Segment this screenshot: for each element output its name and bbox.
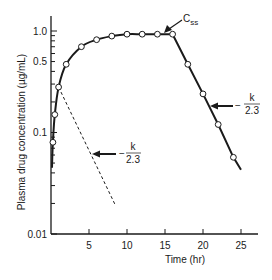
css-arrow-shaft xyxy=(169,20,182,29)
css-label: Css xyxy=(183,13,198,27)
data-point-marker xyxy=(79,44,85,50)
y-tick-label: 0.5 xyxy=(33,56,47,67)
x-tick-label: 20 xyxy=(197,240,209,251)
data-point-marker xyxy=(215,122,221,128)
x-tick-label: 5 xyxy=(86,240,92,251)
pharmacokinetic-chart: 0.010.10.51.0510152025 Css − k 2.3 − k 2… xyxy=(0,0,272,280)
data-point-marker xyxy=(170,31,176,37)
data-point-marker xyxy=(185,61,191,67)
x-tick-label: 10 xyxy=(121,240,133,251)
data-point-marker xyxy=(231,154,237,160)
left-slope-denominator: 2.3 xyxy=(126,154,140,165)
y-tick-label: 0.1 xyxy=(33,127,47,138)
data-point-marker xyxy=(63,61,69,67)
dashed-line xyxy=(59,87,116,206)
right-slope-denominator: 2.3 xyxy=(245,105,259,116)
data-point-marker xyxy=(56,84,62,90)
left-slope-arrow-head-icon xyxy=(92,151,100,158)
data-point-marker xyxy=(109,33,115,39)
data-point-marker xyxy=(200,91,206,97)
right-slope-sign: − xyxy=(235,100,241,111)
data-point-marker xyxy=(155,31,161,37)
left-slope-sign: − xyxy=(119,148,125,159)
right-slope-numerator: k xyxy=(250,92,256,103)
concentration-curve xyxy=(52,34,241,170)
data-point-marker xyxy=(139,31,145,37)
extrapolated-dashed-line xyxy=(59,87,116,206)
left-slope-numerator: k xyxy=(131,141,137,152)
data-point-marker xyxy=(50,139,56,145)
data-point-marker xyxy=(124,31,130,37)
data-point-marker xyxy=(94,37,100,43)
y-tick-label: 0.01 xyxy=(28,229,48,240)
y-axis-title: Plasma drug concentration (µg/mL) xyxy=(16,54,27,210)
data-point-marker xyxy=(52,112,58,118)
concentration-series xyxy=(50,31,241,169)
x-tick-label: 25 xyxy=(235,240,247,251)
x-tick-label: 15 xyxy=(159,240,171,251)
x-axis-title: Time (hr) xyxy=(165,254,205,265)
y-tick-label: 1.0 xyxy=(33,26,47,37)
